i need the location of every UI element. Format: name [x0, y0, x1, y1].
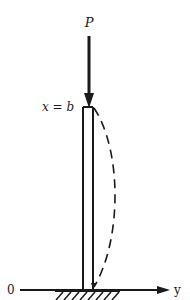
ground-support-hatch: [55, 291, 120, 300]
axis-label: y: [173, 283, 181, 297]
deflected-shape-curve: [94, 108, 115, 287]
column: [83, 107, 93, 290]
axis-arrowhead-icon: [157, 286, 170, 294]
buckling-column-diagram: P x = b 0 y: [0, 0, 190, 300]
origin-label: 0: [7, 283, 15, 297]
arrowhead-down-icon: [84, 93, 94, 108]
load-label: P: [84, 15, 94, 30]
load-arrow: [84, 36, 94, 108]
top-position-label: x = b: [42, 100, 74, 114]
